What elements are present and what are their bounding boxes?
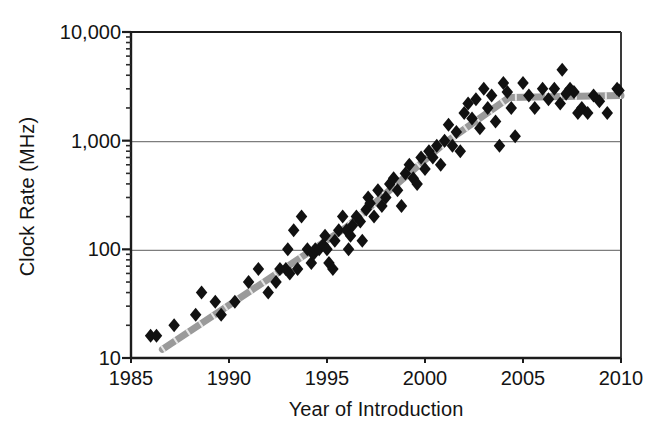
- y-tick-label: 1,000: [18, 129, 121, 152]
- y-tick-label: 100: [18, 238, 121, 261]
- x-tick-label: 2010: [599, 367, 644, 390]
- x-tick-label: 2005: [501, 367, 546, 390]
- plot-area-background: [131, 32, 621, 358]
- x-tick-label: 1990: [207, 367, 252, 390]
- y-tick-label: 10: [18, 347, 121, 370]
- x-tick-label: 1985: [109, 367, 154, 390]
- y-axis-ticks: [122, 32, 131, 358]
- x-tick-label: 2000: [403, 367, 448, 390]
- x-tick-label: 1995: [305, 367, 350, 390]
- y-tick-label: 10,000: [18, 21, 121, 44]
- chart-figure: 10,0001,00010010 19851990199520002005201…: [0, 0, 670, 441]
